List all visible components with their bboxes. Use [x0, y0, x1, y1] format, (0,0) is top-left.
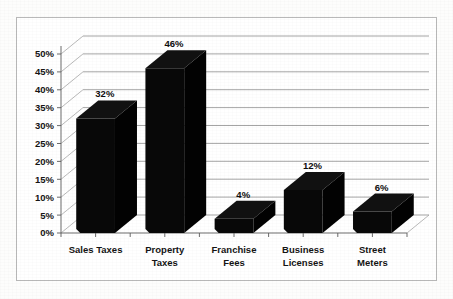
x-category-label-2: Taxes [152, 257, 178, 268]
y-tick-label: 5% [40, 210, 54, 221]
bar-3 [215, 201, 276, 233]
y-tick-label: 15% [35, 174, 55, 185]
bar-5 [353, 194, 414, 233]
x-category-label-3: Fees [223, 257, 245, 268]
chart-figure: 0%5%10%15%20%25%30%35%40%45%50%32%Sales … [16, 17, 437, 281]
bar-1 [76, 100, 137, 233]
y-tick-label: 35% [35, 102, 55, 113]
bar-value-label-4: 12% [303, 160, 323, 171]
bar-4 [284, 172, 345, 233]
bar-value-label-2: 46% [165, 38, 185, 49]
bar-value-label-1: 32% [95, 88, 115, 99]
y-tick-label: 20% [35, 156, 55, 167]
x-category-label-4: Business [282, 244, 324, 255]
bar-value-label-5: 6% [375, 182, 389, 193]
x-category-label-3: Franchise [212, 244, 257, 255]
bar-chart-3d: 0%5%10%15%20%25%30%35%40%45%50%32%Sales … [17, 18, 436, 280]
bar-2 [145, 50, 206, 233]
grid-depth-connector [61, 90, 83, 108]
x-category-label-2: Property [145, 244, 185, 255]
y-tick-label: 0% [40, 227, 54, 238]
x-category-label-4: Licenses [283, 257, 324, 268]
y-tick-label: 50% [35, 48, 55, 59]
x-category-label-5: Street [359, 244, 387, 255]
y-tick-label: 10% [35, 192, 55, 203]
chart-plot-area: 0%5%10%15%20%25%30%35%40%45%50%32%Sales … [17, 18, 436, 280]
y-tick-label: 45% [35, 66, 55, 77]
x-category-label-1: Sales Taxes [69, 244, 123, 255]
y-tick-label: 40% [35, 84, 55, 95]
grid-depth-connector [61, 72, 83, 90]
grid-depth-connector [61, 54, 83, 72]
y-tick-label: 30% [35, 120, 55, 131]
y-tick-label: 25% [35, 138, 55, 149]
grid-depth-connector [61, 36, 83, 54]
x-category-label-5: Meters [357, 257, 388, 268]
bar-value-label-3: 4% [236, 189, 250, 200]
